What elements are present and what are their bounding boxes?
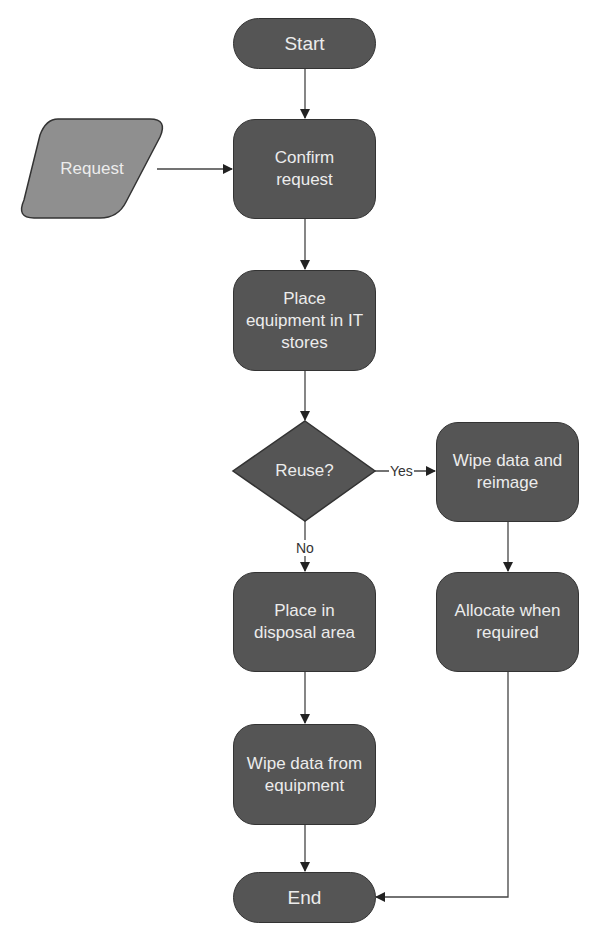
node-start-label: Start xyxy=(278,33,330,55)
node-allocate: Allocate when required xyxy=(436,572,579,672)
node-request-label: Request xyxy=(60,159,123,179)
edge-allocate-end xyxy=(376,671,508,897)
node-disposal-area: Place in disposal area xyxy=(233,572,376,672)
flowchart-canvas: Request Start Confirm request Place equi… xyxy=(0,0,600,933)
node-end-label: End xyxy=(282,887,328,909)
edge-label-yes: Yes xyxy=(389,463,414,479)
node-allocate-label: Allocate when required xyxy=(439,600,576,644)
node-disposal-area-label: Place in disposal area xyxy=(236,600,373,644)
node-request: Request xyxy=(18,119,166,219)
node-wipe-equipment: Wipe data from equipment xyxy=(233,724,376,825)
node-wipe-equipment-label: Wipe data from equipment xyxy=(234,753,375,797)
node-end: End xyxy=(233,872,376,923)
node-wipe-reimage: Wipe data and reimage xyxy=(436,422,579,522)
edge-label-no: No xyxy=(295,540,315,556)
node-confirm-request: Confirm request xyxy=(233,119,376,219)
node-reuse-label: Reuse? xyxy=(275,461,334,481)
node-place-it-stores-label: Place equipment in IT stores xyxy=(236,288,373,354)
node-wipe-reimage-label: Wipe data and reimage xyxy=(439,450,576,494)
node-reuse-decision: Reuse? xyxy=(233,421,376,521)
node-confirm-request-label: Confirm request xyxy=(249,147,361,191)
node-place-it-stores: Place equipment in IT stores xyxy=(233,270,376,371)
node-start: Start xyxy=(233,18,376,69)
